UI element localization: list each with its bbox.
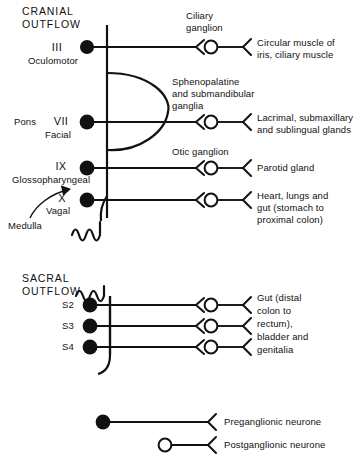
- ciliary-ganglion-neurone: [205, 41, 218, 54]
- legend-postganglionic-label: Postganglionic neurone: [224, 439, 326, 450]
- target-sacral-line1: Gut (distal: [257, 292, 301, 303]
- sacral-outflow-heading-line1: SACRAL: [22, 272, 69, 284]
- nerve-vii-roman-numeral: VII: [48, 115, 74, 128]
- effector-chevron-x: [243, 192, 251, 208]
- nerve-iii-name: Oculomotor: [28, 55, 78, 66]
- effector-chevron-s4: [243, 339, 251, 355]
- legend-preganglionic-marker: [96, 415, 111, 430]
- pelvic-ganglion-neurone-s4: [205, 341, 218, 354]
- legend-preganglionic-chevron: [208, 414, 216, 430]
- target-sacral-line2: colon to: [257, 305, 291, 316]
- target-sacral-line5: genitalia: [257, 344, 293, 355]
- ganglion-chevron-left-s3: [196, 319, 204, 333]
- cranial-outflow-arc: [107, 73, 168, 150]
- nerve-vii-name: Facial: [45, 129, 71, 140]
- autonomic-outflow-diagram: [0, 0, 360, 469]
- sacral-outflow-heading-line2: OUTFLOW: [22, 285, 81, 297]
- sphenopalatine-ganglion-label-line1: Sphenopalatine: [172, 76, 239, 87]
- vagal-terminal-ganglion-neurone: [205, 194, 218, 207]
- ganglion-chevron-left-s4: [196, 340, 204, 354]
- preganglionic-neurone-s3: [83, 319, 98, 334]
- target-iii-line2: iris, ciliary muscle: [257, 49, 333, 60]
- nerve-x-roman-numeral: X: [52, 192, 72, 205]
- ganglion-chevron-left-s2: [196, 298, 204, 312]
- sacral-cord-tapered-end: [98, 355, 110, 374]
- sphenopalatine-ganglion-label-line3: ganglia: [172, 100, 203, 111]
- effector-chevron-s2: [243, 297, 251, 313]
- preganglionic-neurone-vii: [80, 115, 95, 130]
- sacral-segment-s3-label: S3: [62, 320, 74, 331]
- ganglion-chevron-left-iii: [196, 40, 204, 54]
- pelvic-ganglion-neurone-s2: [205, 299, 218, 312]
- cranial-outflow-heading-line2: OUTFLOW: [22, 18, 81, 30]
- sphenopalatine-ganglion-neurone: [205, 116, 218, 129]
- target-ix-line1: Parotid gland: [257, 162, 314, 173]
- target-iii-line1: Circular muscle of: [257, 37, 335, 48]
- target-x-line2: gut (stomach to: [257, 202, 324, 213]
- effector-chevron-vii: [243, 114, 251, 130]
- preganglionic-neurone-x: [80, 193, 95, 208]
- target-x-line3: proximal colon): [257, 214, 323, 225]
- otic-ganglion-neurone: [205, 162, 218, 175]
- medulla-region-label: Medulla: [8, 220, 42, 231]
- nerve-ix-roman-numeral: IX: [48, 160, 74, 173]
- ganglion-chevron-left-vii: [196, 115, 204, 129]
- legend-postganglionic-marker: [159, 439, 172, 452]
- target-sacral-line3: rectum),: [257, 318, 293, 329]
- ganglion-chevron-left-x: [196, 193, 204, 207]
- cranial-outflow-heading-line1: CRANIAL: [22, 5, 74, 17]
- target-vii-line1: Lacrimal, submaxillary: [257, 112, 353, 123]
- target-x-line1: Heart, lungs and: [257, 190, 328, 201]
- preganglionic-neurone-s2: [83, 298, 98, 313]
- target-sacral-line4: bladder and: [257, 331, 308, 342]
- effector-chevron-ix: [243, 160, 251, 176]
- sacral-segment-s4-label: S4: [62, 341, 74, 352]
- effector-chevron-s3: [243, 318, 251, 334]
- sacral-segment-s2-label: S2: [62, 299, 74, 310]
- ganglion-chevron-left-ix: [196, 161, 204, 175]
- legend-postganglionic-chevron: [208, 437, 216, 453]
- cranial-cord-wavy-end: [72, 222, 100, 241]
- target-vii-line2: and sublingual glands: [257, 124, 351, 135]
- sphenopalatine-ganglion-label-line2: and submandibular: [172, 88, 255, 99]
- ciliary-ganglion-label-line1: Ciliary: [186, 10, 213, 21]
- preganglionic-neurone-iii: [80, 40, 94, 54]
- preganglionic-neurone-s4: [83, 340, 98, 355]
- effector-chevron-iii: [243, 39, 251, 55]
- ciliary-ganglion-label-line2: ganglion: [186, 22, 223, 33]
- pons-region-label: Pons: [14, 116, 36, 127]
- otic-ganglion-label: Otic ganglion: [172, 146, 229, 157]
- nerve-x-name: Vagal: [46, 205, 70, 216]
- pelvic-ganglion-neurone-s3: [205, 320, 218, 333]
- nerve-iii-roman-numeral: III: [45, 41, 69, 54]
- legend-preganglionic-label: Preganglionic neurone: [224, 416, 321, 427]
- nerve-ix-name: Glossopharyngeal: [12, 174, 90, 185]
